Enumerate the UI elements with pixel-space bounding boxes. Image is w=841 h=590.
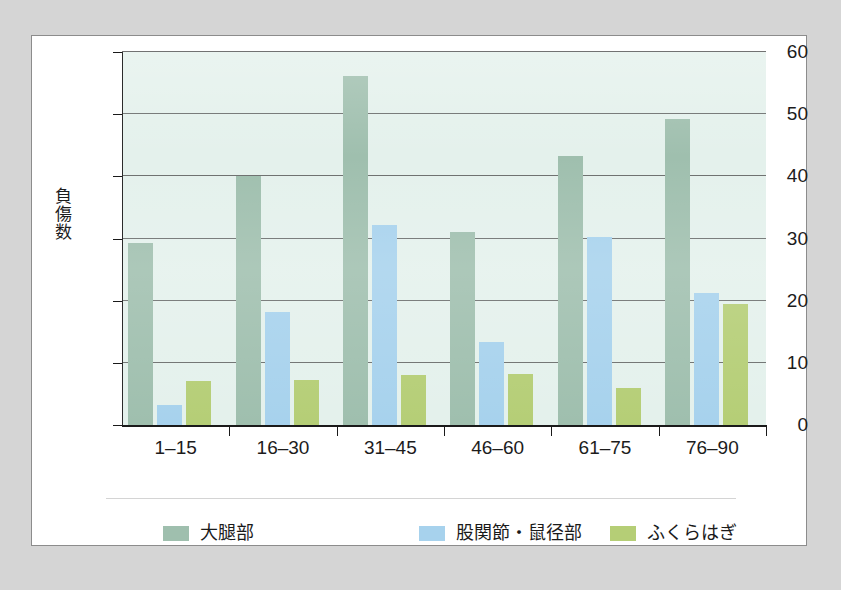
x-axis-tick (337, 427, 338, 436)
y-axis-title-char: 数 (50, 224, 76, 242)
x-axis-tick (229, 427, 230, 436)
x-axis-tick (766, 427, 767, 436)
x-axis-tick-label: 16–30 (229, 438, 336, 459)
y-axis-tick-label: 20 (734, 291, 808, 310)
legend-label: 大腿部 (200, 524, 254, 542)
chart-card: 0102030405060 1–1516–3031–4546–6061–7576… (31, 35, 807, 546)
y-axis-tick (113, 114, 122, 115)
x-axis-tick (659, 427, 660, 436)
bar (236, 176, 261, 425)
y-axis-tick-label: 0 (734, 415, 808, 434)
y-axis-tick-label: 60 (734, 42, 808, 61)
gridline (122, 51, 766, 52)
y-axis-tick (113, 425, 122, 426)
y-axis-tick-label: 40 (734, 166, 808, 185)
legend-item[interactable]: 股関節・鼠径部 (419, 521, 582, 545)
bar (616, 388, 641, 425)
plot-area (122, 52, 766, 425)
bar (343, 76, 368, 425)
bar (157, 405, 182, 425)
legend-item[interactable]: 大腿部 (163, 521, 254, 545)
bar (558, 156, 583, 425)
y-axis-title: 負傷数 (50, 188, 76, 242)
legend-label: 股関節・鼠径部 (456, 524, 582, 542)
gridline (122, 113, 766, 114)
bar (265, 312, 290, 425)
bar (186, 381, 211, 425)
bar (294, 380, 319, 425)
y-axis-tick (113, 363, 122, 364)
bar (665, 119, 690, 425)
x-axis-tick-label: 31–45 (337, 438, 444, 459)
y-axis-title-char: 負 (50, 188, 76, 206)
x-axis-tick (444, 427, 445, 436)
x-axis-tick-label: 76–90 (659, 438, 766, 459)
bar (479, 342, 504, 425)
y-axis-tick-label: 10 (734, 353, 808, 372)
legend-item[interactable]: ふくらはぎ (610, 521, 737, 545)
chart-legend: 大腿部股関節・鼠径部ふくらはぎ (32, 521, 808, 551)
y-axis-tick-label: 50 (734, 104, 808, 123)
bar (587, 237, 612, 425)
y-axis-tick-label: 30 (734, 229, 808, 248)
y-axis-tick (113, 301, 122, 302)
legend-swatch (419, 526, 445, 541)
y-axis-tick (113, 176, 122, 177)
x-axis-tick-label: 46–60 (444, 438, 551, 459)
y-axis-tick (113, 52, 122, 53)
bar (450, 232, 475, 425)
bar (401, 375, 426, 425)
x-axis-tick-label: 1–15 (122, 438, 229, 459)
y-axis-title-char: 傷 (50, 206, 76, 224)
x-axis-tick-label: 61–75 (551, 438, 658, 459)
legend-swatch (163, 526, 189, 541)
y-axis-tick (113, 239, 122, 240)
x-axis-tick (551, 427, 552, 436)
page-background: 0102030405060 1–1516–3031–4546–6061–7576… (0, 0, 841, 590)
bar (694, 293, 719, 425)
legend-swatch (610, 526, 636, 541)
legend-divider (106, 498, 736, 499)
bar (372, 225, 397, 425)
bar (508, 374, 533, 425)
legend-label: ふくらはぎ (647, 524, 737, 542)
chart-plot-region: 0102030405060 1–1516–3031–4546–6061–7576… (32, 36, 808, 466)
bar (128, 243, 153, 425)
y-axis-line (122, 52, 123, 426)
